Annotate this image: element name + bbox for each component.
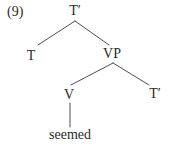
tree-branch-root-tbar-to-t	[38, 21, 75, 45]
tree-node-vp: VP	[103, 47, 121, 61]
tree-branches	[0, 0, 172, 145]
tree-branch-root-tbar-to-vp	[75, 21, 109, 45]
syntax-tree-figure: (9) T′TVPVT′seemed	[0, 0, 172, 145]
tree-node-seemed: seemed	[49, 128, 91, 142]
tree-branch-vp-to-tbar-right	[113, 63, 149, 85]
tree-node-t: T	[27, 49, 36, 63]
tree-branch-vp-to-v	[71, 63, 113, 85]
tree-node-root-tbar: T′	[69, 4, 81, 18]
tree-node-tbar-right: T′	[149, 87, 161, 101]
tree-node-v: V	[64, 88, 74, 102]
